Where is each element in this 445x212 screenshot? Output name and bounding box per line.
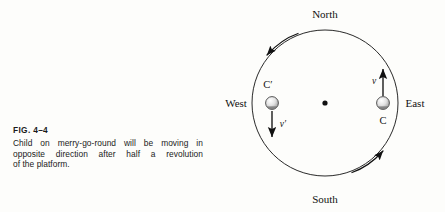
figure-caption-block: FIG. 4–4 Child on merry-go-round will be… bbox=[13, 125, 203, 170]
velocity-label-v-prime: v′ bbox=[280, 119, 287, 129]
caption-line-2: opposite direction after half a revoluti… bbox=[13, 149, 203, 160]
child-shadow-c bbox=[378, 106, 389, 109]
figure-container: FIG. 4–4 Child on merry-go-round will be… bbox=[0, 0, 445, 212]
velocity-label-v: v bbox=[372, 76, 377, 86]
caption-line-3: of the platform. bbox=[13, 159, 203, 170]
merry-go-round-diagram: North South West East v C bbox=[206, 0, 445, 212]
figure-caption-text: Child on merry-go-round will be moving i… bbox=[13, 138, 203, 170]
child-at-c: v C bbox=[372, 69, 390, 126]
child-shadow-c-prime bbox=[267, 106, 278, 109]
position-label-c-prime: C′ bbox=[263, 79, 272, 90]
compass-label-west: West bbox=[225, 97, 247, 109]
child-at-c-prime: C′ v′ bbox=[263, 79, 287, 137]
platform-center-dot bbox=[322, 100, 327, 105]
compass-label-south: South bbox=[312, 193, 338, 205]
diagram-svg: North South West East v C bbox=[206, 0, 445, 212]
caption-line-1: Child on merry-go-round will be moving i… bbox=[13, 138, 203, 149]
compass-label-east: East bbox=[406, 97, 425, 109]
compass-label-north: North bbox=[312, 8, 338, 20]
position-label-c: C bbox=[379, 115, 386, 126]
figure-number-label: FIG. 4–4 bbox=[13, 125, 203, 136]
